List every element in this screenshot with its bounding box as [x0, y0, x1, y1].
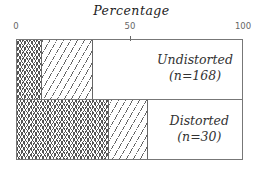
- bar-undistorted: Undistorted (n=168): [16, 39, 243, 100]
- bar-label-undistorted-name: Undistorted: [157, 52, 233, 68]
- bar-label-distorted-name: Distorted: [170, 113, 229, 129]
- bar-label-distorted: Distorted (n=30): [170, 113, 229, 145]
- tick-label-100: 100: [235, 21, 251, 31]
- bar-distorted-crosshatch-segment: [16, 99, 109, 160]
- bar-distorted: Distorted (n=30): [16, 99, 243, 160]
- axis-title: Percentage: [0, 3, 263, 18]
- bar-undistorted-crosshatch-segment: [16, 39, 42, 100]
- bar-undistorted-diagonal-segment: [42, 39, 93, 100]
- bar-label-distorted-n: (n=30): [170, 129, 229, 145]
- bar-label-undistorted-n: (n=168): [157, 68, 233, 84]
- tick-label-50: 50: [125, 21, 136, 31]
- bar-distorted-diagonal-segment: [109, 99, 148, 160]
- tick-label-0: 0: [13, 21, 18, 31]
- bar-label-undistorted: Undistorted (n=168): [157, 52, 233, 84]
